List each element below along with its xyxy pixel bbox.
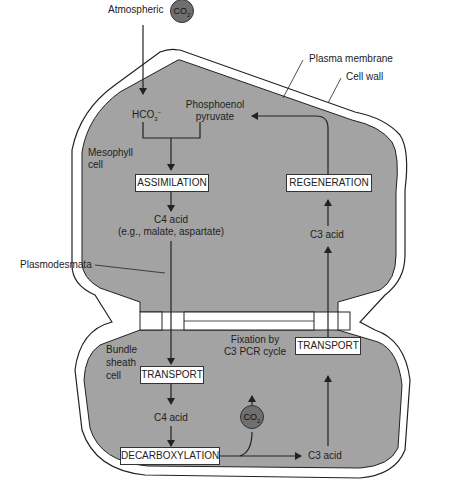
bundle-sheath-cell-label: Bundlesheathcell <box>106 343 137 382</box>
c4-acid-top-line2: (e.g., malate, aspartate) <box>116 226 226 238</box>
co2-bundle-subscript: 2 <box>257 418 260 424</box>
co2-bundle-icon: CO2 <box>240 405 264 429</box>
hco3-superscript: − <box>158 109 162 115</box>
hco3-text: HCO <box>132 109 154 120</box>
cell-diagram-graphic <box>0 0 459 492</box>
co2-text: CO <box>174 6 188 16</box>
assimilation-box: ASSIMILATION <box>135 174 209 192</box>
pep-line2: pyruvate <box>180 111 250 123</box>
plasma-membrane-label: Plasma membrane <box>309 53 393 65</box>
bundle-line3: cell <box>106 369 137 382</box>
plasmodesmata-label: Plasmodesmata <box>20 259 92 271</box>
c4-acid-top-line1: C4 acid <box>116 214 226 226</box>
hco3-label: HCO3− <box>132 106 161 125</box>
hco3-subscript: 3 <box>154 116 157 122</box>
mesophyll-line1: Mesophyll <box>88 147 133 159</box>
fixation-line2: C3 PCR cycle <box>215 346 295 358</box>
c4-acid-top-label: C4 acid(e.g., malate, aspartate) <box>116 214 226 238</box>
bundle-line2: sheath <box>106 356 137 369</box>
transport-left-box: TRANSPORT <box>140 366 204 384</box>
regeneration-box: REGENERATION <box>286 174 372 192</box>
phosphoenol-pyruvate-label: Phosphoenolpyruvate <box>180 99 250 123</box>
co2-subscript: 2 <box>187 12 190 18</box>
c3-acid-top-label: C3 acid <box>310 229 344 241</box>
atmospheric-label: Atmospheric <box>108 4 164 16</box>
cell-wall-label: Cell wall <box>346 71 383 83</box>
pep-line1: Phosphoenol <box>180 99 250 111</box>
fixation-line1: Fixation by <box>215 334 295 346</box>
co2-atmospheric-icon: CO2 <box>170 0 194 23</box>
mesophyll-cell-label: Mesophyllcell <box>88 147 133 171</box>
transport-right-box: TRANSPORT <box>295 337 361 355</box>
decarboxylation-box: DECARBOXYLATION <box>120 447 220 465</box>
co2-bundle-text: CO <box>244 412 258 422</box>
c3-acid-bottom-label: C3 acid <box>308 450 342 462</box>
fixation-label: Fixation byC3 PCR cycle <box>215 334 295 358</box>
mesophyll-line2: cell <box>88 159 133 171</box>
bundle-line1: Bundle <box>106 343 137 356</box>
c4-acid-bottom-label: C4 acid <box>154 412 188 424</box>
